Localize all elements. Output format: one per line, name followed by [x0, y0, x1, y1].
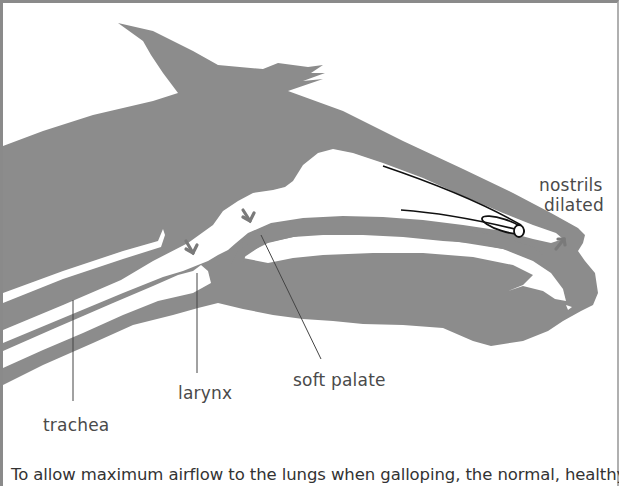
- horse-head-airway-diagram: [3, 3, 619, 486]
- figure-frame: nostrils dilated larynx soft palate trac…: [0, 0, 619, 486]
- label-trachea: trachea: [43, 415, 109, 435]
- label-dilated: dilated: [544, 195, 604, 215]
- label-nostrils: nostrils: [539, 175, 603, 195]
- label-soft-palate: soft palate: [293, 370, 386, 390]
- label-larynx: larynx: [178, 383, 232, 403]
- figure-caption: To allow maximum airflow to the lungs wh…: [11, 465, 619, 484]
- nasal-tube-end: [514, 225, 524, 237]
